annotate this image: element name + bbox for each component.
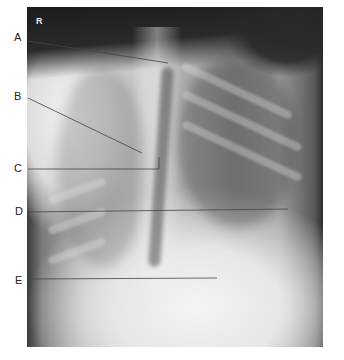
leader-line-b xyxy=(28,98,142,153)
leader-line-d xyxy=(28,209,288,212)
leader-line-e xyxy=(28,278,217,279)
label-d: D xyxy=(15,205,23,217)
leader-lines xyxy=(0,0,344,360)
label-e: E xyxy=(15,274,22,286)
leader-line-c xyxy=(28,157,159,169)
label-b: B xyxy=(14,90,21,102)
label-a: A xyxy=(14,31,21,43)
leader-line-a xyxy=(28,41,168,63)
label-c: C xyxy=(14,162,22,174)
